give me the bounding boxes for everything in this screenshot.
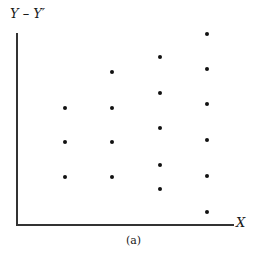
data-point: [158, 55, 162, 59]
data-point: [110, 140, 114, 144]
data-point: [110, 106, 114, 110]
data-point: [205, 32, 209, 36]
data-point: [63, 106, 67, 110]
x-axis-line: [16, 224, 234, 226]
data-point: [205, 210, 209, 214]
data-point: [205, 138, 209, 142]
data-point: [158, 163, 162, 167]
data-point: [63, 175, 67, 179]
x-axis-label: X: [236, 215, 245, 230]
data-point: [158, 126, 162, 130]
data-point: [205, 174, 209, 178]
data-point: [110, 70, 114, 74]
data-point: [158, 91, 162, 95]
figure-caption: (a): [126, 234, 141, 247]
scatter-figure: Y – Y′ X (a): [0, 0, 258, 262]
y-axis-label: Y – Y′: [10, 6, 45, 21]
y-axis-line: [16, 33, 18, 226]
data-point: [158, 187, 162, 191]
data-point: [205, 67, 209, 71]
data-point: [110, 175, 114, 179]
data-point: [205, 102, 209, 106]
data-point: [63, 140, 67, 144]
